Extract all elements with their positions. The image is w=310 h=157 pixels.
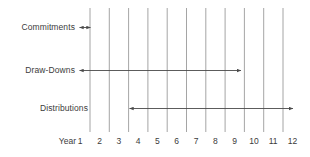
plot-area: Commitments Draw-Downs Distributions Yea…	[0, 0, 310, 157]
x-tick-label-2: 2	[90, 137, 110, 146]
x-tick-label-9: 9	[225, 137, 245, 146]
x-tick-label-7: 7	[186, 137, 206, 146]
x-tick-label-8: 8	[205, 137, 225, 146]
x-tick-label-4: 4	[128, 137, 148, 146]
x-tick-label-1: 1	[70, 137, 90, 146]
fund-lifecycle-timeline-chart: Commitments Draw-Downs Distributions Yea…	[0, 0, 310, 157]
gridlines	[90, 8, 283, 132]
x-tick-label-10: 10	[244, 137, 264, 146]
x-tick-label-6: 6	[167, 137, 187, 146]
x-tick-label-11: 11	[263, 137, 283, 146]
x-tick-label-5: 5	[147, 137, 167, 146]
row-label-distributions: Distributions	[40, 104, 88, 113]
row-label-commitments: Commitments	[21, 23, 75, 32]
x-tick-label-3: 3	[109, 137, 129, 146]
row-label-drawdowns: Draw-Downs	[25, 66, 75, 75]
x-tick-label-12: 12	[283, 137, 303, 146]
